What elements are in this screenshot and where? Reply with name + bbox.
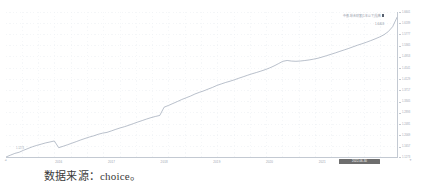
legend-series-label: 中债-综合财富(1年以下)指数 xyxy=(343,14,381,18)
x-axis-tick: 2020 xyxy=(266,160,273,164)
x-axis-tick: 2019 xyxy=(213,160,220,164)
y-axis-tick-mark xyxy=(399,12,401,13)
y-axis-tick-mark xyxy=(399,124,401,125)
last-value-annotation: 1.6403 xyxy=(375,22,384,26)
y-axis-tick: 1.5777 xyxy=(402,33,410,36)
y-axis-tick: 1.2069 xyxy=(402,134,410,137)
x-axis-tick-mark xyxy=(164,157,165,159)
y-axis-tick: 1.2481 xyxy=(402,123,410,126)
y-axis-line xyxy=(397,12,398,158)
chart-legend: 中债-综合财富(1年以下)指数 xyxy=(343,14,384,18)
chart-screenshot: 1.66011.61891.57771.53651.49531.45411.41… xyxy=(0,0,427,189)
y-axis-tick-mark xyxy=(399,57,401,58)
y-axis-tick: 1.4953 xyxy=(402,55,410,58)
y-axis-tick: 1.3305 xyxy=(402,100,410,103)
y-axis-tick-mark xyxy=(399,90,401,91)
y-axis-tick: 1.5365 xyxy=(402,44,410,47)
x-axis-tick-mark xyxy=(59,157,60,159)
y-axis-tick-mark xyxy=(399,102,401,103)
axis-scroll-left-icon[interactable]: ◄ xyxy=(4,159,7,162)
y-axis-tick-mark xyxy=(399,23,401,24)
chart-series-layer xyxy=(6,12,397,157)
x-axis-tick: 2016 xyxy=(55,160,62,164)
y-axis-tick: 1.6601 xyxy=(402,11,410,14)
x-axis-tick: 2018 xyxy=(161,160,168,164)
y-axis-tick: 1.3717 xyxy=(402,89,410,92)
start-value-annotation: 1.1273 xyxy=(16,147,24,151)
y-axis-tick-mark xyxy=(399,68,401,69)
x-axis-tick-mark xyxy=(217,157,218,159)
axis-scroll-down-icon[interactable]: ▼ xyxy=(409,159,412,162)
plot-area xyxy=(6,12,397,157)
x-axis-tick-mark xyxy=(322,157,323,159)
x-axis-tick-mark xyxy=(111,157,112,159)
x-axis-tick-labels: 2022-06-30 201620172018201920202021 xyxy=(6,158,397,166)
source-caption: 数据来源：choice。 xyxy=(44,168,141,184)
chart-panel: 1.66011.61891.57771.53651.49531.45411.41… xyxy=(0,0,427,166)
y-axis-tick-mark xyxy=(399,147,401,148)
x-axis-tick: 2017 xyxy=(108,160,115,164)
x-axis-tick: 2021 xyxy=(319,160,326,164)
selected-date-chip[interactable]: 2022-06-30 xyxy=(339,159,380,164)
y-axis-tick-mark xyxy=(399,46,401,47)
legend-color-swatch xyxy=(382,14,384,16)
y-axis-tick-mark xyxy=(399,34,401,35)
y-axis-tick: 1.2893 xyxy=(402,111,410,114)
y-axis-tick-mark xyxy=(399,79,401,80)
y-axis-tick-mark xyxy=(399,135,401,136)
y-axis-tick: 1.4129 xyxy=(402,78,410,81)
y-axis-tick-mark xyxy=(399,113,401,114)
y-axis-tick: 1.6189 xyxy=(402,22,410,25)
y-axis-tick-labels: 1.66011.61891.57771.53651.49531.45411.41… xyxy=(399,12,427,158)
x-axis-tick-mark xyxy=(270,157,271,159)
y-axis-tick: 1.4541 xyxy=(402,67,410,70)
y-axis-tick: 1.1657 xyxy=(402,145,410,148)
y-axis-tick-mark xyxy=(399,157,401,158)
